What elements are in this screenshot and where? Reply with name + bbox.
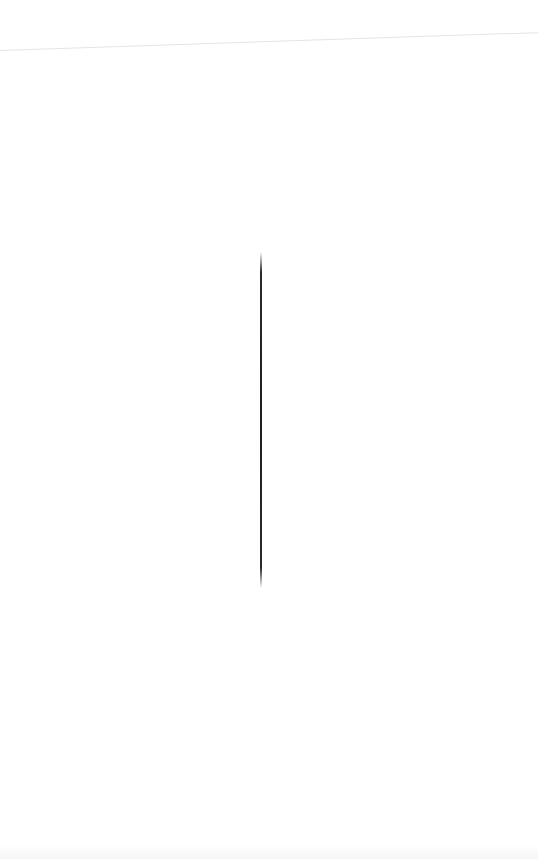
document-canvas[interactable] [0, 66, 538, 859]
footer-edge [0, 845, 538, 859]
header-area [0, 0, 538, 66]
text-cursor [260, 252, 262, 588]
document-page [0, 0, 538, 859]
